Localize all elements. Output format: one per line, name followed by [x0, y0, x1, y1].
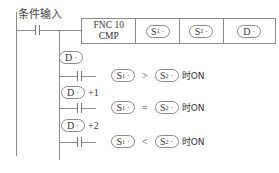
input-rung-line-right [40, 30, 81, 31]
output-device-label-3: D· +2 [61, 119, 99, 132]
output-rung-1-right [82, 76, 96, 77]
cmp-instruction-box: FNC 10 CMP S1· S2· D· [81, 18, 276, 44]
output-bus [59, 30, 60, 160]
device-d-plus-1: D· [61, 86, 85, 99]
fnc-number: FNC 10 [94, 20, 124, 31]
operand-s2: S2· [189, 25, 213, 38]
output-rung-3-right [82, 142, 96, 143]
output-rung-1-left [59, 76, 77, 77]
operand-s2-cell: S2· [180, 19, 224, 43]
condition-row-2: S1· = S2· 时ON [111, 101, 204, 114]
input-rung-line-left [16, 30, 35, 31]
operand-d: D· [237, 25, 261, 38]
device-d: D· [59, 51, 83, 64]
output-device-label-1: D· [59, 51, 86, 64]
condition-row-3: S1· < S2· 时ON [111, 135, 204, 148]
fnc-mnemonic: CMP [99, 31, 119, 42]
fnc-name-cell: FNC 10 CMP [82, 19, 136, 43]
device-d-plus-2: D· [61, 119, 85, 132]
left-power-rail [16, 12, 17, 156]
output-rung-2-right [82, 108, 96, 109]
operand-s1-cell: S1· [136, 19, 180, 43]
condition-input-label: 条件输入 [18, 5, 62, 21]
output-rung-2-left [59, 108, 77, 109]
output-rung-3-left [59, 142, 77, 143]
output-device-label-2: D· +1 [61, 86, 99, 99]
operand-s1: S1· [146, 25, 170, 38]
operand-d-cell: D· [224, 19, 275, 43]
condition-row-1: S1· > S2· 时ON [111, 69, 204, 82]
